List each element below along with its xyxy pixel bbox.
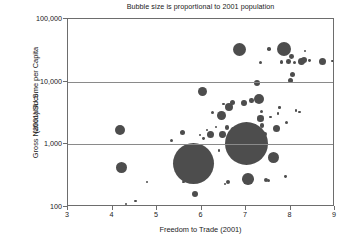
data-bubble [254, 80, 261, 87]
x-tick-label: 8 [280, 210, 300, 219]
data-bubble [319, 58, 327, 66]
data-bubble [225, 122, 268, 165]
plot-area [67, 18, 334, 206]
x-tick-label: 7 [235, 210, 255, 219]
data-bubble [215, 126, 217, 128]
data-bubble [289, 54, 294, 59]
data-bubble [173, 143, 214, 184]
data-bubble [286, 59, 291, 64]
gridline [68, 82, 333, 83]
x-tick-mark [112, 206, 113, 210]
data-bubble [277, 112, 279, 114]
data-bubble [269, 116, 271, 118]
x-axis-title: Freedom to Trade (2001) [67, 225, 334, 234]
x-tick-label: 5 [146, 210, 166, 219]
chart-title: Bubble size is proportional to 2001 popu… [67, 2, 334, 11]
data-bubble [284, 175, 287, 178]
data-bubble [225, 125, 230, 130]
data-bubble [285, 121, 288, 124]
data-bubble [293, 61, 296, 64]
data-bubble [331, 60, 333, 63]
data-bubble [199, 134, 201, 136]
data-bubble [257, 115, 263, 121]
data-bubble [226, 180, 230, 184]
data-bubble [304, 50, 306, 52]
y-tick-label: 100 [20, 202, 62, 211]
data-bubble [242, 173, 254, 185]
data-bubble [298, 111, 300, 113]
bubble-chart: Bubble size is proportional to 2001 popu… [0, 0, 348, 243]
data-bubble [267, 47, 271, 51]
bubble-layer [68, 19, 333, 205]
data-bubble [170, 139, 173, 142]
y-tick-mark [63, 81, 67, 82]
data-bubble [290, 72, 295, 77]
data-bubble [259, 61, 262, 64]
data-bubble [254, 94, 264, 104]
data-bubble [211, 111, 214, 114]
data-bubble [260, 110, 263, 113]
data-bubble [202, 137, 205, 140]
data-bubble [146, 181, 148, 183]
x-tick-mark [201, 206, 202, 210]
y-tick-mark [63, 143, 67, 144]
data-bubble [207, 131, 214, 138]
data-bubble [263, 140, 266, 143]
gridline [68, 144, 333, 145]
data-bubble [116, 162, 127, 173]
data-bubble [267, 179, 270, 182]
data-bubble [278, 106, 281, 109]
data-bubble [218, 149, 220, 151]
data-bubble [260, 123, 264, 127]
data-bubble [192, 191, 198, 197]
data-bubble [115, 125, 125, 135]
x-tick-mark [334, 206, 335, 210]
data-bubble [308, 59, 311, 62]
data-bubble [280, 60, 284, 64]
data-bubble [134, 200, 136, 202]
data-bubble [180, 130, 185, 135]
data-bubble [241, 100, 247, 106]
data-bubble [249, 98, 253, 102]
x-tick-label: 4 [102, 210, 122, 219]
data-bubble [233, 43, 246, 56]
x-tick-mark [67, 206, 68, 210]
y-axis-title-line2: (2001) $U.S. [31, 28, 40, 198]
data-bubble [295, 109, 298, 112]
y-tick-label: 10,000 [20, 77, 62, 86]
data-bubble [230, 100, 235, 105]
x-tick-label: 9 [324, 210, 344, 219]
x-tick-mark [290, 206, 291, 210]
y-tick-mark [63, 18, 67, 19]
x-tick-label: 3 [57, 210, 77, 219]
y-tick-label: 1,000 [20, 139, 62, 148]
data-bubble [224, 183, 226, 185]
data-bubble [268, 152, 279, 163]
data-bubble [273, 125, 280, 132]
data-bubble [198, 87, 207, 96]
x-tick-label: 6 [191, 210, 211, 219]
x-tick-mark [156, 206, 157, 210]
data-bubble [301, 57, 307, 63]
x-tick-mark [245, 206, 246, 210]
y-tick-label: 100,000 [20, 14, 62, 23]
data-bubble [125, 203, 127, 205]
data-bubble [217, 111, 226, 120]
